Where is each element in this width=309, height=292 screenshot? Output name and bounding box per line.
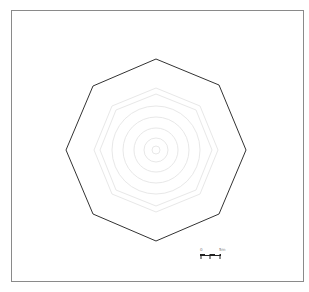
inner-rings [94, 88, 218, 212]
inner-octagon [100, 94, 212, 206]
ring-circle [112, 106, 200, 194]
inner-octagon-outer [94, 88, 218, 212]
center-circle [152, 146, 160, 154]
outer-octagon [66, 59, 246, 241]
octagon-diagram: 0 5m [0, 0, 309, 292]
scale-label-start: 0 [200, 247, 203, 252]
ring-circle [144, 138, 168, 162]
scale-label-end: 5m [219, 247, 226, 252]
scale-bar: 0 5m [200, 247, 226, 259]
ring-circle [123, 117, 189, 183]
ring-circle [134, 128, 178, 172]
